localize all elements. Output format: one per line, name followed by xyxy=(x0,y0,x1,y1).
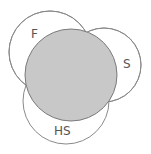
set-f-label: F xyxy=(31,27,38,41)
set-hs-label: HS xyxy=(54,124,71,138)
set-s-label: S xyxy=(123,57,131,71)
euler-diagram: F S HS xyxy=(0,0,151,154)
center-circle xyxy=(25,29,117,121)
